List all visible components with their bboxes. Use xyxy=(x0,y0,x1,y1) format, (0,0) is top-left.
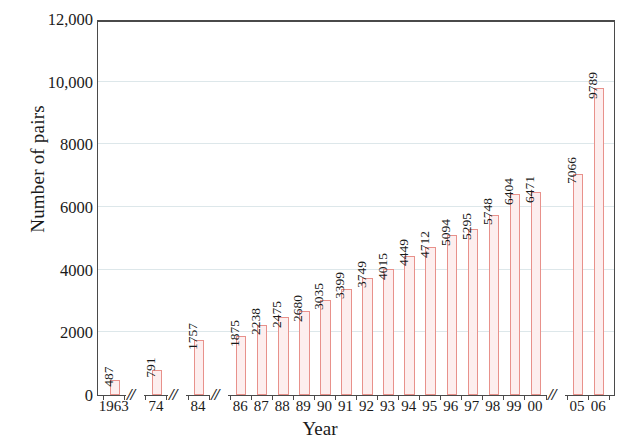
y-axis-tick-label: 0 xyxy=(21,388,93,405)
x-axis-tick-label: 00 xyxy=(527,399,542,414)
x-axis-title: Year xyxy=(275,418,365,440)
bar-value-label: 487 xyxy=(101,367,115,387)
bar xyxy=(447,235,458,395)
bar-value-label: 6404 xyxy=(501,178,515,205)
y-axis-tick-label: 10,000 xyxy=(21,75,93,92)
bar-value-label: 3035 xyxy=(312,283,326,310)
x-axis-tick-label: 93 xyxy=(380,399,395,414)
x-axis-tick-label: 06 xyxy=(591,399,606,414)
x-axis-tick-label: 95 xyxy=(422,399,437,414)
bar-value-label: 3399 xyxy=(333,272,347,299)
x-axis-tick-label: 90 xyxy=(317,399,332,414)
bar xyxy=(510,194,521,395)
x-axis-tick-label: 74 xyxy=(148,399,163,414)
bar-group: 4015 xyxy=(383,269,394,395)
x-axis-tick-label: 94 xyxy=(401,399,416,414)
bar xyxy=(299,311,310,395)
bar-value-label: 3749 xyxy=(354,261,368,288)
bar-value-label: 7066 xyxy=(565,157,579,184)
bar-group: 4712 xyxy=(425,247,436,395)
x-axis-tick-label: 98 xyxy=(485,399,500,414)
bar-group: 6471 xyxy=(531,192,542,395)
bar-value-label: 2680 xyxy=(291,295,305,322)
bar xyxy=(257,325,268,395)
plot-area: 4877911757187522382475268030353399374940… xyxy=(97,20,615,396)
bar-group: 5295 xyxy=(468,229,479,395)
bar-value-label: 6471 xyxy=(522,176,536,203)
bar-group: 2238 xyxy=(257,325,268,395)
bar-value-label: 2475 xyxy=(270,301,284,328)
bar-group: 5748 xyxy=(489,215,500,395)
bar-value-label: 9789 xyxy=(586,72,600,99)
bar-value-label: 4712 xyxy=(417,231,431,258)
bar-chart: Number of pairs 0200040006000800010,0001… xyxy=(0,0,630,445)
x-axis-tick-label: 1963 xyxy=(99,399,129,414)
bar xyxy=(278,317,289,395)
bar xyxy=(489,215,500,395)
bar-group: 7066 xyxy=(573,174,584,395)
bar-value-label: 5748 xyxy=(480,198,494,225)
x-axis-tick-label: 96 xyxy=(443,399,458,414)
bar-group: 5094 xyxy=(447,235,458,395)
bar-group: 6404 xyxy=(510,194,521,395)
y-axis-tick-label: 4000 xyxy=(21,263,93,280)
y-axis-tick-label: 12,000 xyxy=(21,12,93,29)
y-axis-tick-label: 8000 xyxy=(21,137,93,154)
x-axis-tick-label: 92 xyxy=(359,399,374,414)
bar xyxy=(425,247,436,395)
bar-value-label: 4449 xyxy=(396,239,410,266)
bar-value-label: 2238 xyxy=(249,308,263,335)
bar-value-label: 1757 xyxy=(186,323,200,350)
bar-group: 2475 xyxy=(278,317,289,395)
x-axis-tick-label: 88 xyxy=(275,399,290,414)
x-axis-tick-label: 87 xyxy=(254,399,269,414)
bar-value-label: 4015 xyxy=(375,253,389,280)
x-axis-tick-label: 84 xyxy=(191,399,206,414)
bar xyxy=(468,229,479,395)
bar xyxy=(594,88,605,395)
bar-value-label: 791 xyxy=(143,357,157,377)
bar xyxy=(320,300,331,395)
x-axis-tick-label: 99 xyxy=(506,399,521,414)
x-axis-tick-label: 86 xyxy=(233,399,248,414)
bar-group: 3749 xyxy=(362,278,373,395)
bar xyxy=(383,269,394,395)
x-axis-tick-label: 91 xyxy=(338,399,353,414)
bar-value-label: 5094 xyxy=(438,219,452,246)
bar-value-label: 5295 xyxy=(459,213,473,240)
bar xyxy=(404,256,415,395)
bar xyxy=(362,278,373,395)
bars-layer: 4877911757187522382475268030353399374940… xyxy=(98,22,614,395)
y-axis-tick-label: 6000 xyxy=(21,200,93,217)
bar xyxy=(531,192,542,395)
bar xyxy=(573,174,584,395)
y-axis-tick-label: 2000 xyxy=(21,325,93,342)
bar-group: 2680 xyxy=(299,311,310,395)
y-axis-tick-labels: 0200040006000800010,00012,000 xyxy=(0,0,93,445)
bar-group: 9789 xyxy=(594,88,605,395)
bar-group: 3399 xyxy=(341,289,352,396)
bar-group: 4449 xyxy=(404,256,415,395)
x-axis-tick-label: 89 xyxy=(296,399,311,414)
bar-group: 3035 xyxy=(320,300,331,395)
bar xyxy=(341,289,352,396)
bar-value-label: 1875 xyxy=(228,320,242,347)
x-axis-tick-label: 05 xyxy=(570,399,585,414)
x-axis-tick-label: 97 xyxy=(464,399,479,414)
